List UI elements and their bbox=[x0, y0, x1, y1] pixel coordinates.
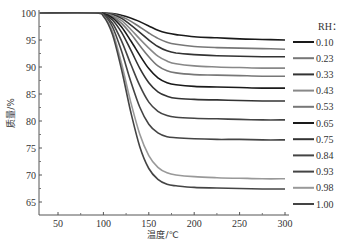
legend-title: RH： bbox=[318, 21, 342, 32]
y-tick-label: 80 bbox=[26, 116, 36, 127]
series-line-rh-0.10 bbox=[40, 13, 285, 40]
y-tick-label: 65 bbox=[26, 197, 36, 208]
y-axis-title: 质量/% bbox=[5, 98, 16, 128]
plot-area bbox=[40, 13, 285, 189]
x-axis-title: 温度/℃ bbox=[147, 229, 178, 240]
series-line-rh-0.33 bbox=[40, 13, 285, 57]
x-tick-label: 50 bbox=[53, 218, 63, 229]
tga-mass-temperature-chart: 65707580859095100 50100150200250300 温度/℃… bbox=[0, 0, 343, 248]
x-tick-label: 150 bbox=[141, 218, 156, 229]
legend-label: 1.00 bbox=[316, 199, 334, 210]
legend-label: 0.43 bbox=[316, 85, 334, 96]
legend-label: 0.33 bbox=[316, 69, 334, 80]
legend-label: 0.98 bbox=[316, 182, 334, 193]
legend-label: 0.10 bbox=[316, 37, 334, 48]
series-line-rh-0.53 bbox=[40, 13, 285, 76]
legend-label: 0.23 bbox=[316, 53, 334, 64]
legend-label: 0.75 bbox=[316, 134, 334, 145]
legend-label: 0.53 bbox=[316, 101, 334, 112]
x-tick-label: 250 bbox=[232, 218, 247, 229]
series-line-rh-0.65 bbox=[40, 13, 285, 88]
y-tick-label: 75 bbox=[26, 143, 36, 154]
y-tick-label: 100 bbox=[21, 8, 36, 19]
legend-label: 0.65 bbox=[316, 118, 334, 129]
y-tick-label: 70 bbox=[26, 170, 36, 181]
series-line-rh-0.98 bbox=[40, 13, 285, 179]
series-line-rh-0.84 bbox=[40, 13, 285, 120]
x-tick-label: 200 bbox=[187, 218, 202, 229]
legend-label: 0.93 bbox=[316, 166, 334, 177]
y-tick-label: 85 bbox=[26, 89, 36, 100]
y-tick-label: 90 bbox=[26, 62, 36, 73]
x-tick-label: 300 bbox=[278, 218, 293, 229]
legend: RH： 0.100.230.330.430.530.650.750.840.93… bbox=[293, 21, 342, 210]
x-tick-label: 100 bbox=[96, 218, 111, 229]
legend-label: 0.84 bbox=[316, 150, 334, 161]
y-tick-label: 95 bbox=[26, 35, 36, 46]
